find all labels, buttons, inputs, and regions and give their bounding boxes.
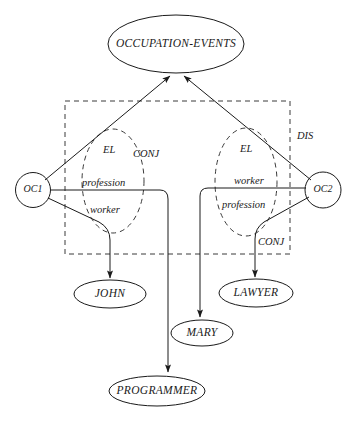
node-oc1-label: OC1 bbox=[24, 183, 43, 194]
region-label-el-left: EL bbox=[102, 144, 115, 155]
region-label-conj-left: CONJ bbox=[133, 148, 161, 159]
edge-label-right-worker: worker bbox=[234, 175, 265, 186]
edge-oc1-to-occupation-events bbox=[45, 76, 170, 180]
edge-oc2-to-occupation-events bbox=[184, 76, 311, 180]
region-label-el-right: EL bbox=[239, 143, 252, 154]
diagram-canvas: OCCUPATION-EVENTS OC1 OC2 JOHN LAWYER MA… bbox=[0, 0, 356, 425]
node-occupation-events-label: OCCUPATION-EVENTS bbox=[116, 37, 236, 49]
edge-oc1-profession-to-programmer bbox=[51, 190, 168, 372]
region-label-dis: DIS bbox=[296, 130, 314, 141]
node-mary-label: MARY bbox=[185, 326, 218, 338]
node-programmer-label: PROGRAMMER bbox=[116, 384, 198, 396]
node-lawyer-label: LAWYER bbox=[233, 286, 279, 298]
node-john-label: JOHN bbox=[95, 287, 127, 299]
edge-label-left-worker: worker bbox=[90, 204, 121, 215]
edge-label-right-profession: profession bbox=[221, 199, 265, 210]
node-oc2-label: OC2 bbox=[314, 183, 333, 194]
edge-label-left-profession: profession bbox=[81, 177, 125, 188]
region-label-conj-right: CONJ bbox=[258, 236, 286, 247]
